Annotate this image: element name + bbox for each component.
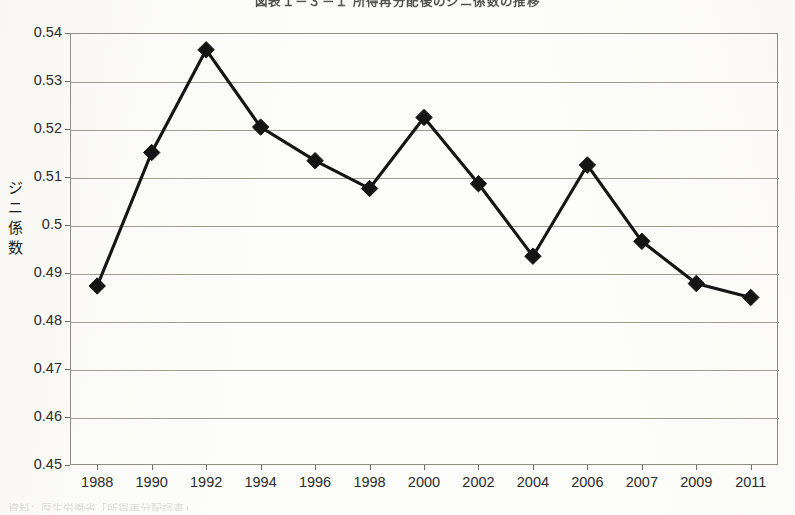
x-axis-tick <box>424 465 425 470</box>
x-axis-tick <box>206 465 207 470</box>
x-axis-label: 1994 <box>234 474 288 490</box>
y-axis-label: 0.46 <box>16 408 62 424</box>
x-axis-label: 2006 <box>560 474 614 490</box>
y-axis-label: 0.53 <box>16 72 62 88</box>
x-axis-tick <box>97 465 98 470</box>
x-axis-label: 2011 <box>724 474 778 490</box>
x-axis-label: 1988 <box>70 474 124 490</box>
y-axis-label: 0.52 <box>16 120 62 136</box>
y-axis-title-char-1: ニ <box>4 198 26 218</box>
x-axis-tick <box>696 465 697 470</box>
x-axis-tick <box>370 465 371 470</box>
x-axis-label: 1990 <box>125 474 179 490</box>
x-axis-label: 2002 <box>451 474 505 490</box>
x-axis-label: 1998 <box>343 474 397 490</box>
series-line-gini <box>97 50 751 298</box>
x-axis-tick <box>533 465 534 470</box>
scanned-figure-page: 図表１－３－１ 所得再分配後のジニ係数の推移 ジ ニ 係 数 0.540.530… <box>0 0 795 515</box>
data-point-marker <box>143 144 159 160</box>
x-axis-label: 2004 <box>506 474 560 490</box>
x-axis-tick <box>478 465 479 470</box>
y-axis-label: 0.51 <box>16 168 62 184</box>
x-axis-label: 2007 <box>615 474 669 490</box>
x-axis-label: 2000 <box>397 474 451 490</box>
y-axis-label: 0.5 <box>16 216 62 232</box>
x-axis-tick <box>587 465 588 470</box>
x-axis-tick <box>261 465 262 470</box>
x-axis-label: 2009 <box>669 474 723 490</box>
y-axis-label: 0.45 <box>16 456 62 472</box>
x-axis-tick <box>315 465 316 470</box>
y-axis-label: 0.47 <box>16 360 62 376</box>
y-axis-label: 0.48 <box>16 312 62 328</box>
x-axis-tick <box>751 465 752 470</box>
data-point-marker <box>307 152 323 168</box>
chart-title: 図表１－３－１ 所得再分配後のジニ係数の推移 <box>0 0 795 9</box>
y-axis-label: 0.49 <box>16 264 62 280</box>
y-axis-title-char-3: 数 <box>4 238 26 258</box>
figure-footnote: 資料：厚生労働省「所得再分配調査」 <box>8 500 195 511</box>
data-point-marker <box>743 289 759 305</box>
data-point-marker <box>89 278 105 294</box>
x-axis-tick <box>642 465 643 470</box>
x-axis-tick <box>152 465 153 470</box>
y-axis-label: 0.54 <box>16 24 62 40</box>
y-axis-tick <box>65 465 70 466</box>
series-layer <box>70 33 778 465</box>
x-axis-label: 1992 <box>179 474 233 490</box>
x-axis-label: 1996 <box>288 474 342 490</box>
